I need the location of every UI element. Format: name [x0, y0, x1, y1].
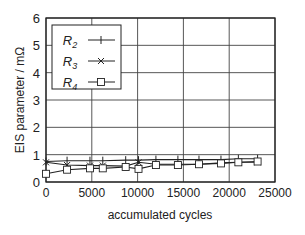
x-tick-label: 20000 — [213, 186, 247, 200]
x-tick-label: 10000 — [121, 186, 155, 200]
y-tick-label: 6 — [33, 11, 40, 26]
y-tick-label: 0 — [33, 175, 40, 190]
line-chart: 0123456 0500010000150002000025000 accumu… — [0, 0, 305, 235]
x-axis-ticks: 0500010000150002000025000 — [43, 186, 292, 200]
x-tick-label: 25000 — [258, 186, 292, 200]
x-tick-label: 0 — [43, 186, 50, 200]
x-tick-label: 5000 — [78, 186, 105, 200]
y-tick-label: 3 — [33, 93, 40, 108]
y-tick-label: 4 — [33, 66, 40, 81]
y-axis-label: EIS parameter / mΩ — [13, 47, 27, 153]
y-tick-label: 1 — [33, 148, 40, 163]
x-tick-label: 15000 — [167, 186, 201, 200]
y-axis-ticks: 0123456 — [33, 11, 40, 190]
legend: R2R3R4 — [52, 25, 121, 92]
data-series — [43, 155, 262, 178]
y-tick-label: 2 — [33, 120, 40, 135]
x-axis-label: accumulated cycles — [108, 208, 213, 222]
y-tick-label: 5 — [33, 38, 40, 53]
